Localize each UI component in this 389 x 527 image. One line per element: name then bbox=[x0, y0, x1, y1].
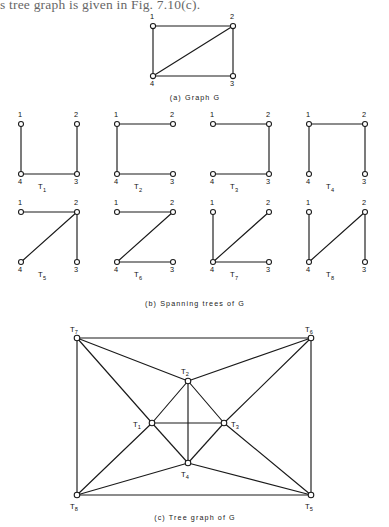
vertex-label-1: 1 bbox=[114, 198, 118, 207]
node-1 bbox=[307, 122, 312, 127]
graph-g-svg: 1 2 3 4 bbox=[140, 14, 250, 86]
tree-graph-node-T5 bbox=[308, 492, 314, 498]
vertex-label-2: 2 bbox=[74, 198, 78, 207]
figure-a-graph-g: 1 2 3 4 bbox=[140, 14, 250, 86]
node-4 bbox=[19, 172, 24, 177]
tree-graph-node-labels: T7T6T8T5T2T1T3T4 bbox=[70, 325, 313, 512]
spanning-tree-edges bbox=[309, 212, 365, 262]
vertex-label-4: 4 bbox=[210, 177, 214, 186]
node-2 bbox=[171, 210, 176, 215]
node-2 bbox=[363, 210, 368, 215]
caption-figure-a: (a) Graph G bbox=[125, 93, 265, 102]
vertex-label-4: 4 bbox=[114, 177, 118, 186]
spanning-tree-t5: 1234 bbox=[8, 200, 94, 274]
spanning-tree-vertex-labels: 1234 bbox=[210, 198, 270, 274]
tree-graph-node-T7 bbox=[74, 335, 80, 341]
spanning-tree-t3: 1234 bbox=[200, 112, 286, 186]
edge-T5-T3 bbox=[224, 423, 311, 495]
spanning-tree-t4: 1234 bbox=[296, 112, 382, 186]
vertex-label-2: 2 bbox=[362, 198, 366, 207]
spanning-tree-edges bbox=[213, 124, 269, 174]
vertex-label-2: 2 bbox=[74, 110, 78, 119]
spanning-tree-label-2: T2 bbox=[134, 182, 142, 193]
node-4 bbox=[307, 260, 312, 265]
caption-figure-c: (c) Tree graph of G bbox=[120, 513, 270, 522]
spanning-tree-vertex-labels: 1234 bbox=[18, 198, 78, 274]
edge-T7-T1 bbox=[77, 338, 152, 423]
node-1 bbox=[19, 210, 24, 215]
node-4 bbox=[150, 73, 155, 78]
edge-4-2 bbox=[309, 212, 365, 262]
vertex-label-3: 3 bbox=[266, 265, 270, 274]
vertex-label-2: 2 bbox=[170, 198, 174, 207]
spanning-tree-label-8: T8 bbox=[326, 270, 334, 281]
vertex-label-4: 4 bbox=[306, 265, 310, 274]
vertex-label-2: 2 bbox=[266, 110, 270, 119]
tree-graph-node-T2 bbox=[185, 378, 191, 384]
tree-graph-edges bbox=[77, 338, 311, 495]
vertex-label-1: 1 bbox=[306, 110, 310, 119]
vertex-label-1: 1 bbox=[18, 198, 22, 207]
spanning-tree-edges bbox=[117, 212, 173, 262]
spanning-tree-nodes bbox=[211, 122, 272, 177]
node-2 bbox=[363, 122, 368, 127]
node-4 bbox=[307, 172, 312, 177]
spanning-tree-edges bbox=[21, 212, 77, 262]
node-1 bbox=[115, 122, 120, 127]
edge-4-2-diagonal bbox=[153, 26, 233, 76]
vertex-label-3: 3 bbox=[74, 177, 78, 186]
spanning-tree-label-5: T5 bbox=[38, 270, 46, 281]
vertex-label-4: 4 bbox=[150, 79, 154, 88]
vertex-label-2: 2 bbox=[362, 110, 366, 119]
node-2 bbox=[75, 210, 80, 215]
spanning-tree-edges bbox=[21, 124, 77, 174]
edge-T5-T4 bbox=[188, 463, 311, 495]
vertex-label-2: 2 bbox=[230, 12, 234, 21]
spanning-tree-label-1: T1 bbox=[38, 182, 46, 193]
spanning-tree-t7: 1234 bbox=[200, 200, 286, 274]
edge-T6-T2 bbox=[188, 338, 311, 381]
spanning-tree-label-6: T6 bbox=[134, 270, 142, 281]
spanning-tree-svg-5: 1234 bbox=[8, 200, 94, 274]
spanning-tree-vertex-labels: 1234 bbox=[18, 110, 78, 186]
spanning-tree-vertex-labels: 1234 bbox=[114, 110, 174, 186]
edge-T6-T3 bbox=[224, 338, 311, 423]
vertex-label-3: 3 bbox=[266, 177, 270, 186]
vertex-label-3: 3 bbox=[230, 79, 234, 88]
tree-graph-node-T6 bbox=[308, 335, 314, 341]
spanning-tree-nodes bbox=[115, 122, 176, 177]
edge-4-2 bbox=[213, 212, 269, 262]
edge-T8-T4 bbox=[77, 463, 188, 495]
edge-T3-T4 bbox=[188, 423, 224, 463]
vertex-label-3: 3 bbox=[170, 177, 174, 186]
vertex-label-2: 2 bbox=[170, 110, 174, 119]
tree-graph-label-T5: T5 bbox=[305, 502, 313, 512]
tree-graph-node-T1 bbox=[149, 420, 155, 426]
spanning-tree-t6: 1234 bbox=[104, 200, 190, 274]
spanning-tree-t2: 1234 bbox=[104, 112, 190, 186]
vertex-label-1: 1 bbox=[114, 110, 118, 119]
spanning-tree-label-4: T4 bbox=[326, 182, 334, 193]
tree-graph-label-T6: T6 bbox=[305, 325, 313, 335]
page-body-text: s tree graph is given in Fig. 7.10(c). bbox=[0, 0, 260, 13]
spanning-tree-svg-6: 1234 bbox=[104, 200, 190, 274]
edge-2-4 bbox=[21, 212, 77, 262]
spanning-tree-svg-8: 1234 bbox=[296, 200, 382, 274]
spanning-tree-svg-2: 1234 bbox=[104, 112, 190, 186]
node-4 bbox=[115, 172, 120, 177]
vertex-label-4: 4 bbox=[18, 265, 22, 274]
graph-g-edges bbox=[153, 26, 233, 76]
vertex-label-1: 1 bbox=[210, 198, 214, 207]
tree-graph-label-T7: T7 bbox=[70, 325, 78, 335]
tree-graph-node-T3 bbox=[221, 420, 227, 426]
node-4 bbox=[211, 172, 216, 177]
spanning-tree-vertex-labels: 1234 bbox=[114, 198, 174, 274]
node-3 bbox=[75, 172, 80, 177]
node-1 bbox=[211, 122, 216, 127]
vertex-label-4: 4 bbox=[210, 265, 214, 274]
spanning-tree-nodes bbox=[307, 122, 368, 177]
node-3 bbox=[363, 260, 368, 265]
tree-graph-node-T4 bbox=[185, 460, 191, 466]
figure-page: s tree graph is given in Fig. 7.10(c). 1… bbox=[0, 0, 389, 527]
node-3 bbox=[267, 260, 272, 265]
